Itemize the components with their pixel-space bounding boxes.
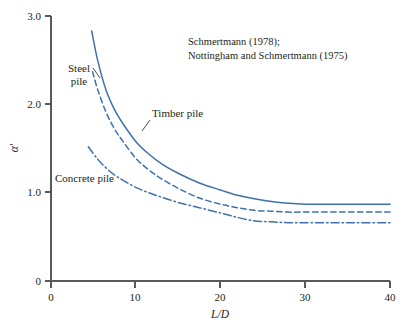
label-concrete-pile: Concrete pile: [55, 172, 114, 184]
y-tick-label-3: 3.0: [27, 10, 41, 22]
figure-container: 3.0 2.0 1.0 0 0 10 20 30 40 L/D α': [0, 0, 406, 332]
x-axis-title: L/D: [210, 308, 230, 320]
x-tick-label-20: 20: [215, 291, 227, 303]
y-tick-label-2: 2.0: [27, 98, 41, 110]
alpha-prime-vs-ld-chart: 3.0 2.0 1.0 0 0 10 20 30 40 L/D α': [0, 0, 406, 332]
curve-annotations-group: Steel pile Timber pile Concrete pile: [55, 62, 203, 184]
x-tick-label-30: 30: [300, 291, 312, 303]
source-note-line1: Schmertmann (1978);: [188, 36, 280, 48]
x-tick-label-10: 10: [130, 291, 142, 303]
label-timber-pile: Timber pile: [152, 107, 203, 119]
source-note-line2: Nottingham and Schmertmann (1975): [188, 50, 348, 62]
leader-timber-pile: [142, 120, 150, 131]
y-axis-ticks: 3.0 2.0 1.0 0: [27, 10, 51, 287]
source-annotation: Schmertmann (1978); Nottingham and Schme…: [188, 36, 348, 62]
y-axis-title: α': [8, 143, 20, 152]
label-steel-pile-line1: Steel: [68, 62, 90, 74]
x-tick-label-0: 0: [48, 291, 54, 303]
x-tick-label-40: 40: [385, 291, 397, 303]
y-tick-label-0: 0: [36, 275, 42, 287]
y-tick-label-1: 1.0: [27, 186, 41, 198]
x-axis-ticks: 0 10 20 30 40: [48, 281, 396, 303]
label-steel-pile-line2: pile: [71, 75, 88, 87]
